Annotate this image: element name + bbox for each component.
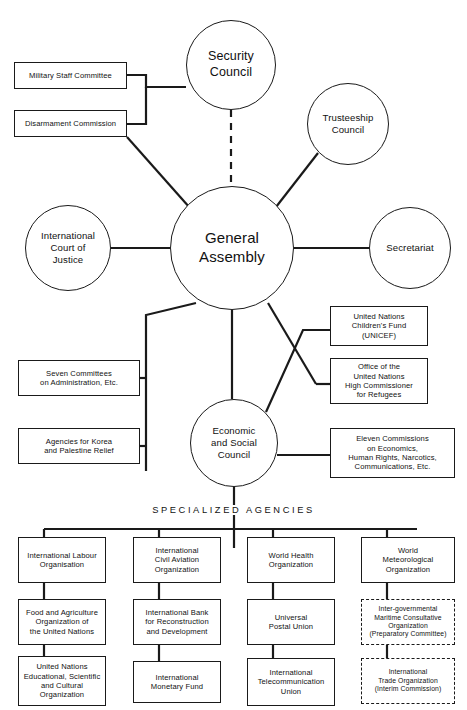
ito-label: International Trade Organization (Interi… [375,668,442,693]
node-wmo[interactable]: World Meteorological Organization [361,537,455,583]
edge-ga-left-trunk [146,303,196,471]
edge-ecosoc-unicef [266,330,330,412]
node-ito[interactable]: International Trade Organization (Interi… [361,658,455,704]
ibrd-label: International Bank for Reconstruction an… [145,608,208,636]
edge-disarmament-ga [127,137,190,208]
military-staff-committee-label: Military Staff Committee [29,71,112,80]
node-who[interactable]: World Health Organization [247,537,335,583]
node-economic-and-social-council[interactable]: Economic and Social Council [190,399,278,487]
secretariat-label: Secretariat [386,242,434,254]
who-label: World Health Organization [269,551,314,570]
node-general-assembly[interactable]: General Assembly [170,186,294,310]
unesco-label: United Nations Educational, Scientific a… [24,662,101,700]
node-eleven-commissions[interactable]: Eleven Commissions on Economics, Human R… [330,428,455,478]
unicef-label: United Nations Children's Fund (UNICEF) [352,312,406,340]
node-itu[interactable]: International Telecommunication Union [247,658,335,706]
general-assembly-label: General Assembly [199,229,265,267]
seven-committees-label: Seven Committees on Administration, Etc. [40,369,118,388]
imf-label: International Monetary Fund [151,673,203,692]
trusteeship-council-label: Trusteeship Council [323,112,374,136]
node-imf[interactable]: International Monetary Fund [133,661,221,703]
node-disarmament-commission[interactable]: Disarmament Commission [14,110,127,137]
icao-label: International Civil Aviation Organizatio… [155,546,199,574]
international-court-label: International Court of Justice [41,230,95,266]
node-ibrd[interactable]: International Bank for Reconstruction an… [133,599,221,645]
agencies-korea-palestine-label: Agencies for Korea and Palestine Relief [44,437,114,456]
eleven-commissions-label: Eleven Commissions on Economics, Human R… [348,434,437,472]
itu-label: International Telecommunication Union [258,668,325,696]
edge-ga-unhcr-diagonal [268,303,316,384]
specialized-agencies-header-text: SPECIALIZED AGENCIES [146,505,321,515]
upu-label: Universal Postal Union [269,613,313,632]
organizational-chart: Security Council Trusteeship Council Gen… [0,0,467,710]
node-unhcr[interactable]: Office of the United Nations High Commis… [330,358,428,404]
unhcr-label: Office of the United Nations High Commis… [345,362,413,400]
edge-trusteeship-ga [276,153,318,207]
edge-msc-security [127,75,186,87]
node-icao[interactable]: International Civil Aviation Organizatio… [133,537,221,583]
fao-label: Food and Agriculture Organization of the… [26,608,98,636]
node-international-court-of-justice[interactable]: International Court of Justice [25,205,111,291]
disarmament-commission-label: Disarmament Commission [25,119,116,128]
economic-social-council-label: Economic and Social Council [211,425,257,461]
node-military-staff-committee[interactable]: Military Staff Committee [14,62,127,89]
node-seven-committees[interactable]: Seven Committees on Administration, Etc. [18,360,140,396]
node-unicef[interactable]: United Nations Children's Fund (UNICEF) [330,306,428,346]
edge-disarmament-security [127,87,146,124]
node-ilo[interactable]: International Labour Organisation [18,537,106,583]
node-agencies-korea-palestine[interactable]: Agencies for Korea and Palestine Relief [18,428,140,464]
node-secretariat[interactable]: Secretariat [369,207,451,289]
security-council-label: Security Council [208,49,254,80]
specialized-agencies-header: SPECIALIZED AGENCIES [0,505,467,515]
node-fao[interactable]: Food and Agriculture Organization of the… [18,599,106,645]
node-upu[interactable]: Universal Postal Union [247,599,335,645]
ilo-label: International Labour Organisation [27,551,97,570]
wmo-label: World Meteorological Organization [383,546,434,574]
node-trusteeship-council[interactable]: Trusteeship Council [307,83,389,165]
node-security-council[interactable]: Security Council [186,20,276,110]
imco-label: Inter-governmental Maritime Consultative… [369,605,446,639]
node-unesco[interactable]: United Nations Educational, Scientific a… [18,656,106,706]
node-imco[interactable]: Inter-governmental Maritime Consultative… [361,599,455,645]
